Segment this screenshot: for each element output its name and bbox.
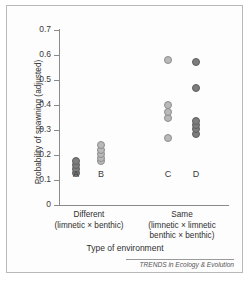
data-point-c: [164, 56, 172, 64]
x-category-different: Different(limnetic × benthic): [55, 210, 124, 231]
figure-panel: Probability of spawning (adjusted) 00.10…: [0, 0, 250, 283]
x-category-sub-label: (limnetic × benthic): [55, 221, 124, 232]
data-point-d: [192, 84, 200, 92]
y-axis-line: [59, 29, 60, 206]
x-category-sub-label-2: benthic × benthic): [148, 231, 216, 242]
data-point-b: [97, 141, 105, 149]
journal-credit: TRENDS in Ecology & Evolution: [139, 261, 234, 268]
x-category-sub-label: (limnetic × limnetic: [148, 221, 216, 232]
data-point-c: [164, 101, 172, 109]
x-category-main-label: Different: [55, 210, 124, 221]
data-point-d: [192, 117, 200, 125]
y-tick-mark: [54, 55, 59, 56]
y-tick-mark: [54, 155, 59, 156]
data-point-c: [164, 134, 172, 142]
data-point-c: [164, 108, 172, 116]
group-label-a: A: [73, 169, 79, 179]
group-label-c: C: [165, 169, 172, 179]
y-tick-mark: [54, 105, 59, 106]
credit-rule: [126, 259, 234, 260]
data-point-d: [192, 58, 200, 66]
x-category-main-label: Same: [148, 210, 216, 221]
y-tick-mark: [54, 205, 59, 206]
group-label-d: D: [193, 169, 200, 179]
data-point-a: [72, 157, 80, 165]
x-axis-title: Type of environment: [0, 243, 250, 253]
y-tick-mark: [54, 80, 59, 81]
plot-area: Probability of spawning (adjusted) 00.10…: [0, 0, 250, 283]
y-tick-mark: [54, 130, 59, 131]
y-tick-mark: [54, 180, 59, 181]
x-axis-line: [59, 205, 229, 206]
y-tick-mark: [54, 30, 59, 31]
group-label-b: B: [98, 169, 104, 179]
x-category-same: Same(limnetic × limneticbenthic × benthi…: [148, 210, 216, 242]
